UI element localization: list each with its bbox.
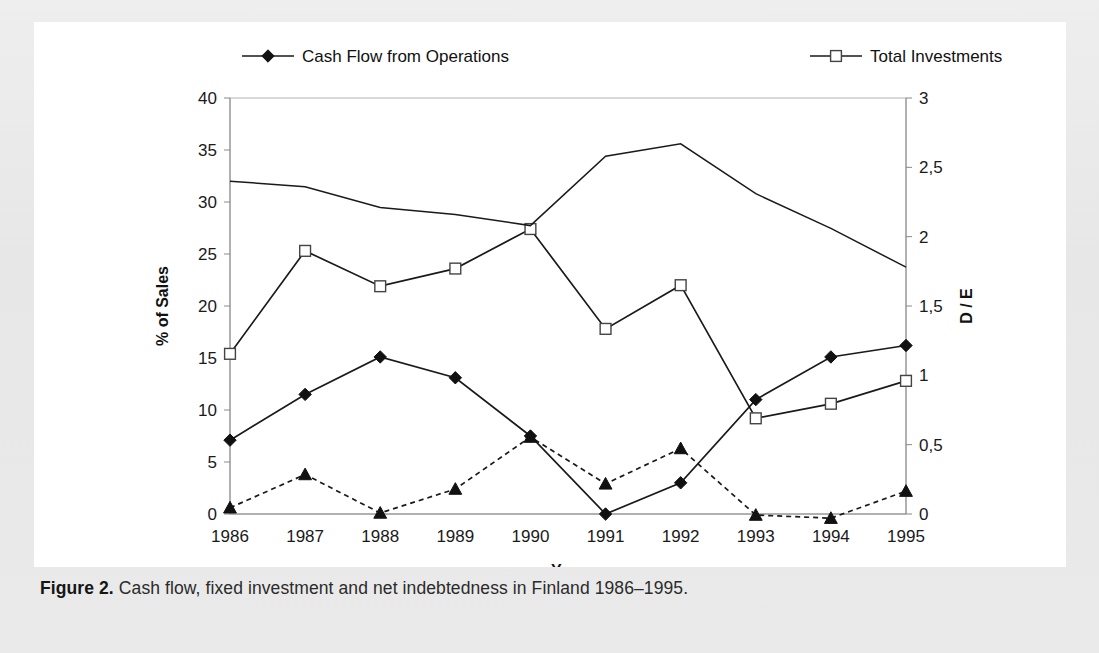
y-axis-tick-label: 0 (208, 505, 217, 524)
y-axis-tick-label: 5 (208, 453, 217, 472)
data-point-marker (599, 477, 612, 489)
x-axis-tick-label: 1995 (887, 527, 925, 546)
legend-label: Cash Flow from Operations (302, 47, 509, 66)
y2-axis-tick-label: 1 (919, 366, 928, 385)
legend-label: Total Investments (870, 47, 1002, 66)
x-axis-tick-label: 1994 (812, 527, 850, 546)
data-point-marker (225, 348, 236, 359)
x-axis-title: Year (551, 562, 585, 567)
figure-caption-text: Cash flow, fixed investment and net inde… (114, 578, 688, 598)
data-point-marker (900, 485, 913, 497)
data-point-marker (750, 413, 761, 424)
figure-caption: Figure 2. Cash flow, fixed investment an… (40, 578, 1060, 599)
data-point-marker (831, 51, 842, 62)
data-point-marker (300, 245, 311, 256)
series-1 (224, 339, 912, 520)
data-point-marker (299, 388, 311, 400)
y-axis-tick-label: 25 (198, 245, 217, 264)
data-point-marker (901, 375, 912, 386)
y2-axis-tick-label: 0,5 (919, 436, 943, 455)
axis-titles: % of SalesD / EYear (154, 266, 975, 567)
x-axis-tick-label: 1986 (211, 527, 249, 546)
data-point-marker (900, 339, 912, 351)
data-point-marker (262, 50, 274, 62)
figure-container: Cash Flow from OperationsTotal Investmen… (0, 0, 1099, 653)
data-point-marker (450, 263, 461, 274)
data-point-marker (674, 442, 687, 454)
x-axis-tick-label: 1989 (436, 527, 474, 546)
legend-item-1: Cash Flow from Operations (242, 47, 509, 66)
chart-panel: Cash Flow from OperationsTotal Investmen… (34, 22, 1066, 567)
y2-axis-title: D / E (958, 288, 975, 324)
x-axis-tick-label: 1991 (587, 527, 625, 546)
y-axis-tick-label: 40 (198, 89, 217, 108)
series-2 (225, 224, 912, 424)
y2-axis-tick-label: 0 (919, 505, 928, 524)
x-axis-tick-label: 1990 (512, 527, 550, 546)
y2-axis-tick-label: 1,5 (919, 297, 943, 316)
y-axis-tick-label: 10 (198, 401, 217, 420)
figure-number: Figure 2. (40, 578, 114, 598)
series-3 (224, 431, 913, 524)
y2-axis-tick-label: 2 (919, 228, 928, 247)
y2-axis-tick-label: 2,5 (919, 158, 943, 177)
x-axis-tick-label: 1987 (286, 527, 324, 546)
y-axis-tick-label: 35 (198, 141, 217, 160)
series-4 (230, 144, 906, 267)
data-series-layer (224, 144, 913, 524)
plot-frame (230, 98, 906, 514)
chart-legend: Cash Flow from OperationsTotal Investmen… (242, 47, 1066, 66)
data-point-marker (224, 501, 237, 513)
data-point-marker (825, 351, 837, 363)
line-chart: Cash Flow from OperationsTotal Investmen… (34, 22, 1066, 567)
legend-item-2: Total Investments (810, 47, 1002, 66)
y-axis-tick-label: 20 (198, 297, 217, 316)
data-point-marker (675, 280, 686, 291)
y-axis-tick-label: 15 (198, 349, 217, 368)
data-point-marker (299, 468, 312, 480)
data-point-marker (224, 434, 236, 446)
data-point-marker (449, 483, 462, 495)
y2-axis-tick-label: 3 (919, 89, 928, 108)
y-axis-tick-label: 30 (198, 193, 217, 212)
y-axis-title: % of Sales (154, 266, 171, 346)
data-point-marker (600, 323, 611, 334)
x-axis-tick-label: 1988 (361, 527, 399, 546)
data-point-marker (825, 398, 836, 409)
x-axis-tick-label: 1993 (737, 527, 775, 546)
x-axis-tick-label: 1992 (662, 527, 700, 546)
data-point-marker (375, 281, 386, 292)
data-point-marker (374, 351, 386, 363)
